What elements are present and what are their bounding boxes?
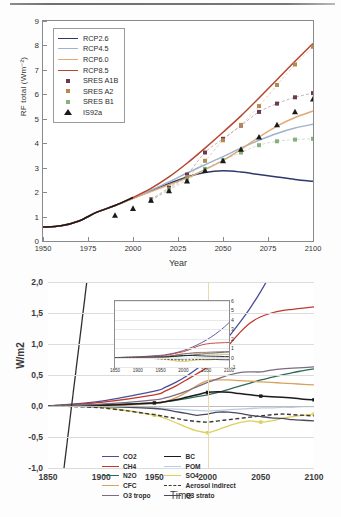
legend-swatch-line [164,495,181,496]
inset-y-tick-label: 6 [231,298,234,304]
x-tick-label-top: 2000 [125,244,142,253]
x-tick-mark [43,237,44,241]
legend-item-rcp4-5: RCP4.5 [58,44,118,55]
legend-label: BC [185,453,195,460]
marker-IS92a [166,188,172,194]
chart-rf-total-scenarios: RCP2.6RCP4.5RCP6.0RCP8.5SRES A1BSRES A2S… [0,12,341,262]
series-line-historical [43,197,133,227]
legend-label: CO2 [123,453,137,460]
x-tick-label-top: 2025 [170,244,187,253]
marker-BC [153,401,156,404]
legend-swatch-line [102,466,119,467]
y-axis-label-top: RF total (Wm⁻²) [19,17,28,157]
grid-line-horizontal [48,406,314,407]
series-line-RCP6.0 [43,111,313,227]
y-tick-label-bottom: 2,0 [31,277,43,287]
legend-swatch-line [102,495,119,496]
x-tick-label-top: 2075 [260,244,277,253]
legend-item-bc: BC [164,452,235,462]
legend-item-aerosol-indirect: Aerosol indirect [164,481,235,491]
y-tick-label-top: 6 [35,90,39,99]
legend-swatch-line [164,466,181,467]
marker-SRES A2 [311,45,313,49]
marker-IS92a [112,212,118,218]
legend-item-o3-strato: O3 strato [164,490,235,500]
y-tick-mark [43,241,47,242]
marker-SRES A1B [311,91,313,95]
marker-SRES B1 [275,139,279,143]
grid-line-horizontal [48,437,314,438]
legend-label: SRES A1B [83,76,118,85]
legend-item-rcp2-6: RCP2.6 [58,33,118,44]
marker-IS92a [292,109,298,115]
y-tick-label-bottom: 1,0 [31,339,43,349]
legend-label: RCP8.5 [83,66,109,75]
inset-grid-line [115,301,229,302]
legend-label: O3 tropo [123,492,150,499]
inset-y-tick-label: 0 [231,355,234,361]
x-tick-label-bottom: 1850 [39,472,58,482]
inset-x-tick-label: 2000 [178,368,188,373]
legend-item-rcp8-5: RCP8.5 [58,65,118,76]
legend-item-sres-a1b: SRES A1B [58,75,118,86]
y-tick-mark [43,70,47,71]
figure-page: RCP2.6RCP4.5RCP6.0RCP8.5SRES A1BSRES A2S… [0,0,341,517]
legend-item-o3-tropo: O3 tropo [102,490,150,500]
legend-item-is92a: IS92a [58,107,118,118]
legend-label: CH4 [123,463,136,470]
legend-bottom-right: BCPOMSO4Aerosol indirectO3 strato [164,452,235,500]
inset-grid-line [115,320,229,321]
marker-IS92a [256,134,262,140]
legend-label: RCP6.0 [83,55,109,64]
y-axis-label-bottom: W/m2 [15,306,26,406]
legend-swatch-line [58,48,78,49]
legend-swatch-marker [58,109,78,115]
legend-item-sres-b1: SRES B1 [58,97,118,108]
legend-swatch-marker [58,89,78,93]
legend-label: SO4 [185,472,198,479]
legend-swatch-line [102,485,119,486]
marker-SRES A1B [293,95,297,99]
legend-item-rcp6-0: RCP6.0 [58,54,118,65]
y-tick-label-top: 3 [35,163,39,172]
legend-item-n2o: N2O [102,471,150,481]
x-tick-label-top: 1950 [35,244,52,253]
legend-bottom-left: CO2CH4N2OCFCO3 tropo [102,452,150,500]
marker-BC [312,398,314,401]
inset-grid-line [115,329,229,330]
marker-SRES B1 [293,138,297,142]
legend-item-pom: POM [164,462,235,472]
inset-y-tick-label: 2 [231,336,234,342]
y-tick-label-bottom: 0,0 [31,401,43,411]
legend-swatch-line [102,456,119,457]
x-tick-mark [178,237,179,241]
inset-grid-line [115,310,229,311]
inset-grid-line [115,358,229,359]
x-tick-label-top: 2050 [215,244,232,253]
legend-swatch-marker [58,100,78,104]
inset-x-tick-label: 2100 [224,368,234,373]
legend-item-sres-a2: SRES A2 [58,86,118,97]
series-guide-SRES A1B [151,93,313,199]
marker-SRES A2 [239,123,243,127]
y-tick-mark [43,168,47,169]
inset-y-tick-label: 1 [231,345,234,351]
inset-y-tick-label: 4 [231,317,234,323]
x-tick-label-top: 1975 [80,244,97,253]
marker-BC [259,394,262,397]
y-tick-mark [43,94,47,95]
legend-label: SRES A2 [83,87,113,96]
legend-swatch-line [58,70,78,71]
legend-label: CFC [123,482,137,489]
grid-line-horizontal [48,282,314,283]
legend-top: RCP2.6RCP4.5RCP6.0RCP8.5SRES A1BSRES A2S… [53,28,125,123]
legend-item-cfc: CFC [102,481,150,491]
legend-label: RCP4.5 [83,44,109,53]
marker-SRES A2 [221,138,225,142]
marker-IS92a [310,96,313,102]
y-tick-label-bottom: -0,5 [28,432,43,442]
legend-item-co2: CO2 [102,452,150,462]
legend-label: RCP2.6 [83,34,109,43]
marker-SRES A2 [257,104,261,108]
marker-SO4 [259,420,262,423]
